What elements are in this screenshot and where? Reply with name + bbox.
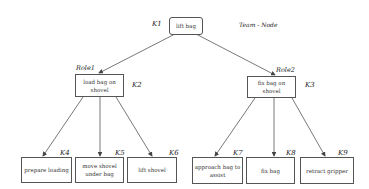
node-k5-text: move shovel under bag bbox=[77, 162, 122, 178]
node-k2: load bag on shovel bbox=[75, 74, 124, 97]
node-k9-text: retract gripper bbox=[306, 167, 348, 175]
node-k3-text: fix bag on shovel bbox=[249, 79, 294, 95]
node-k8-id: K8 bbox=[286, 149, 296, 157]
node-k4-text: prepare loading bbox=[24, 166, 69, 174]
edge-k1-k2 bbox=[99, 34, 175, 73]
node-k5: move shovel under bag bbox=[75, 157, 124, 183]
edge-k2-k4 bbox=[43, 97, 83, 156]
team-node-label: Team - Node bbox=[239, 21, 277, 28]
task-tree-diagram: lift bag K1 Team - Node Role1 load bag o… bbox=[0, 0, 369, 189]
node-k3-id: K3 bbox=[305, 81, 315, 89]
edge-k3-k7 bbox=[215, 98, 255, 156]
node-k7-id: K7 bbox=[233, 149, 243, 157]
node-k1-id: K1 bbox=[152, 20, 162, 28]
node-k9-id: K9 bbox=[338, 149, 348, 157]
node-k8-text: fix bag bbox=[261, 167, 280, 175]
node-k1: lift bag bbox=[169, 17, 203, 35]
node-k6-id: K6 bbox=[169, 149, 179, 157]
node-k6-text: lift shovel bbox=[138, 166, 165, 174]
node-k6: lift shovel bbox=[127, 157, 177, 183]
edge-k1-k3 bbox=[196, 34, 275, 75]
node-k2-id: K2 bbox=[132, 81, 142, 89]
edge-k2-k6 bbox=[116, 97, 152, 156]
role2-label: Role2 bbox=[276, 66, 295, 74]
role1-label: Role1 bbox=[76, 64, 95, 72]
node-k2-text: load bag on shovel bbox=[77, 78, 122, 94]
node-k8: fix bag bbox=[246, 157, 295, 184]
node-k7: approach bag to assist bbox=[192, 157, 243, 184]
node-k7-text: approach bag to assist bbox=[194, 163, 241, 179]
node-k4-id: K4 bbox=[60, 149, 70, 157]
node-k9: retract gripper bbox=[300, 157, 354, 184]
node-k4: prepare loading bbox=[21, 157, 72, 183]
node-k1-text: lift bag bbox=[176, 22, 196, 30]
node-k3: fix bag on shovel bbox=[247, 76, 296, 98]
edge-k3-k9 bbox=[292, 98, 325, 156]
node-k5-id: K5 bbox=[115, 149, 125, 157]
